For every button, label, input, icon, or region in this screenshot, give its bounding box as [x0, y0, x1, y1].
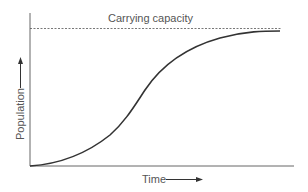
x-axis-label: Time — [142, 173, 166, 185]
population-curve — [30, 31, 280, 166]
x-arrow-head-icon — [196, 177, 203, 182]
y-arrow-head-icon — [18, 57, 23, 64]
logistic-growth-diagram: Carrying capacity Time Population — [0, 0, 308, 192]
carrying-capacity-label: Carrying capacity — [108, 12, 193, 24]
y-axis-label: Population — [14, 88, 26, 140]
